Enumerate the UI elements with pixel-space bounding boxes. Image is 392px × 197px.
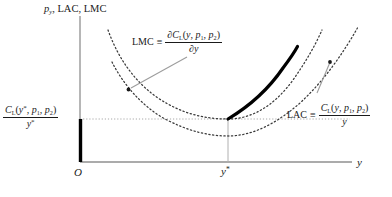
price-close-paren: ): [53, 104, 56, 115]
lmc-num-c: C: [172, 29, 179, 40]
lmc-denominator: ∂y: [165, 43, 222, 54]
x-axis-label: y: [357, 157, 362, 168]
price-c-symbol: C: [5, 104, 12, 115]
lmc-leader-arrowhead: [127, 88, 131, 92]
lmc-numerator: ∂CL(y, p1, p2): [165, 30, 222, 43]
y-axis-label: py, LAC, LMC: [44, 4, 106, 15]
lmc-identity-symbol: ≡: [154, 37, 166, 47]
lac-name: LAC: [287, 110, 307, 120]
lac-leader-line: [317, 64, 330, 94]
lmc-leader-line: [131, 57, 187, 88]
lmc-num-close: ): [217, 29, 220, 40]
lac-identity-symbol: ≡: [307, 110, 319, 120]
lac-num-close: ): [365, 102, 368, 113]
origin-label: O: [74, 167, 82, 178]
lac-fraction: CL(y, p1, p2) y: [319, 103, 371, 127]
lac-den-y: y: [342, 116, 346, 127]
lac-annotation-label: LAC≡ CL(y, p1, p2) y: [287, 103, 370, 127]
lmc-annotation-label: LMC≡ ∂CL(y, p1, p2) ∂y: [132, 30, 222, 54]
lmc-name: LMC: [132, 37, 154, 47]
ystar-tick-label-star: *: [226, 165, 230, 174]
y-axis-label-rest: , LAC, LMC: [52, 3, 106, 14]
lmc-fraction: ∂CL(y, p1, p2) ∂y: [165, 30, 222, 54]
price-level-numerator: CL(y*, p1, p2): [3, 105, 58, 118]
lac-denominator: y: [319, 116, 371, 127]
lac-leader-arrowhead: [328, 60, 332, 64]
cost-curve-figure: py, LAC, LMC y O y* CL(y*, p1, p2) y* LM…: [0, 0, 392, 197]
price-level-fraction: CL(y*, p1, p2) y*: [3, 105, 58, 129]
ystar-tick-label: y*: [221, 166, 230, 177]
lmc-den-y: y: [194, 43, 198, 54]
price-den-star: *: [31, 118, 35, 126]
lac-numerator: CL(y, p1, p2): [319, 103, 371, 116]
price-level-denominator: y*: [3, 118, 58, 129]
price-level-label: CL(y*, p1, p2) y*: [3, 105, 58, 129]
